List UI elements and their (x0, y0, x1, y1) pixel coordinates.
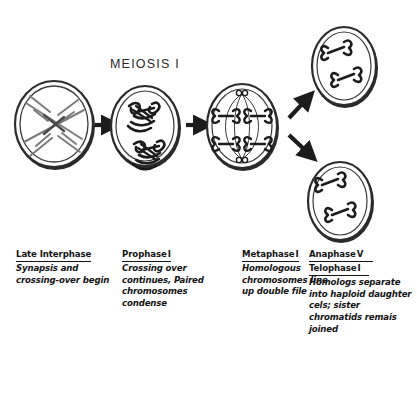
daughter-cell-top (312, 27, 378, 108)
caption-late-interphase: Late Interphase Synapsis and crossing-ov… (16, 249, 120, 286)
caption-phase-numeral: I (294, 249, 298, 259)
caption-prophase-i: ProphaseI Crossing over continues, Paire… (122, 249, 222, 309)
arrow-3 (289, 102, 304, 118)
late-interphase-cell (15, 81, 95, 170)
caption-body: Crossing over continues, Paired chromoso… (122, 263, 222, 309)
caption-phase-title: Late Interphase (16, 249, 91, 262)
caption-phase-numeral: V (356, 249, 364, 259)
caption-anaphase-telophase-i: AnaphaseV TelophaseI Homologs separate i… (309, 249, 413, 335)
caption-phase-title: MetaphaseI (242, 249, 299, 262)
caption-phase-title-secondary: TelophaseI (309, 263, 369, 276)
arrow-4 (289, 135, 306, 151)
caption-body: Homologs separate into haploid daughter … (309, 277, 413, 335)
caption-phase-title: ProphaseI (122, 249, 171, 262)
metaphase-i-cell (207, 84, 279, 171)
caption-phase-numeral: I (167, 249, 171, 259)
prophase-i-cell (111, 86, 181, 169)
caption-phase-title: AnaphaseV (309, 249, 373, 262)
caption-body: Synapsis and crossing-over begin (16, 263, 120, 286)
meiosis-diagram: MEIOSIS I (0, 0, 417, 393)
caption-phase-numeral-secondary: I (357, 263, 361, 273)
daughter-cell-bottom (308, 162, 374, 243)
